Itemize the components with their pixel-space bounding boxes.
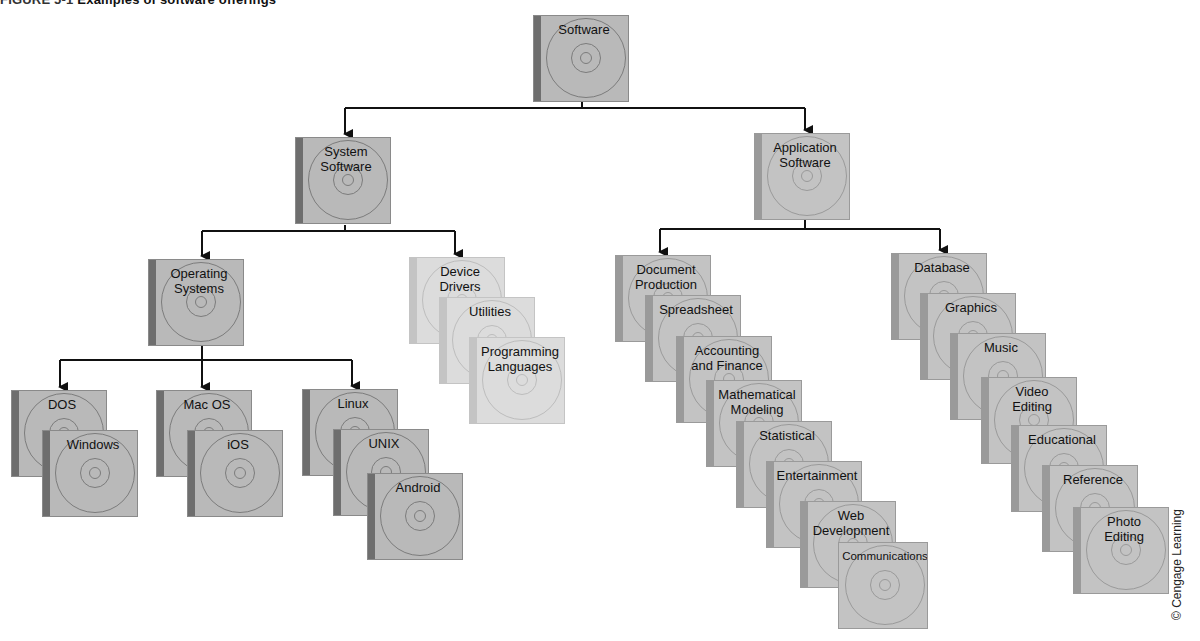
node-ios: iOS [187,430,283,517]
node-application-software: ApplicationSoftware [754,133,850,220]
node-label: Spreadsheet [652,302,740,317]
node-label: DocumentProduction [622,262,710,292]
node-system-software: SystemSoftware [295,137,391,224]
node-label: Graphics [927,300,1015,315]
node-label: Communications [838,549,928,564]
node-label: Accountingand Finance [683,343,771,373]
node-label: iOS [194,437,282,452]
node-label: Windows [49,437,137,452]
node-label: Statistical [743,428,831,443]
node-software: Software [533,15,629,102]
node-label: Android [374,480,462,495]
node-label: Linux [309,396,397,411]
node-android: Android [367,473,463,560]
node-label: UNIX [340,436,428,451]
node-label: Database [898,260,986,275]
node-label: WebDevelopment [807,508,895,538]
node-label: Educational [1018,432,1106,447]
node-label: Entertainment [773,468,861,483]
node-label: Music [957,340,1045,355]
node-label: MathematicalModeling [713,387,801,417]
node-programming-languages: ProgrammingLanguages [469,337,565,424]
copyright-credit: © Cengage Learning [1170,509,1184,620]
node-label: Utilities [446,304,534,319]
node-photo-editing: PhotoEditing [1073,507,1169,594]
node-communications: Communications [838,542,928,629]
node-label: ApplicationSoftware [761,140,849,170]
node-label: ProgrammingLanguages [476,344,564,374]
node-label: OperatingSystems [155,266,243,296]
node-operating-systems: OperatingSystems [148,259,244,346]
node-label: VideoEditing [988,384,1076,414]
node-label: Software [540,22,628,37]
node-label: PhotoEditing [1080,514,1168,544]
node-label: Reference [1049,472,1137,487]
node-label: DeviceDrivers [416,264,504,294]
node-windows: Windows [42,430,138,517]
node-label: SystemSoftware [302,144,390,174]
node-label: Mac OS [163,397,251,412]
node-label: DOS [18,397,106,412]
